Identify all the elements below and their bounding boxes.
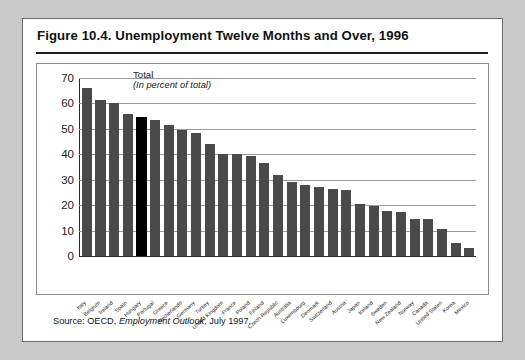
source-publication: Employment Outlook bbox=[119, 316, 204, 326]
x-axis-labels-group: ItalyBelgiumIrelandSpainHungaryPortugalG… bbox=[80, 258, 477, 304]
figure-card: Figure 10.4. Unemployment Twelve Months … bbox=[22, 18, 503, 342]
bar-iceland[interactable] bbox=[369, 206, 379, 256]
bar-slot bbox=[462, 79, 476, 256]
bar-slot bbox=[162, 79, 176, 256]
source-prefix: Source: OECD, bbox=[53, 316, 119, 326]
bar-new-zealand[interactable] bbox=[396, 212, 406, 257]
bar-turkey[interactable] bbox=[205, 144, 215, 256]
bar-hungary[interactable] bbox=[136, 117, 146, 256]
source-suffix: , July 1997. bbox=[204, 316, 251, 326]
plot-area: 010203040506070 bbox=[79, 79, 476, 257]
bar-germany[interactable] bbox=[191, 133, 201, 256]
bar-norway[interactable] bbox=[410, 219, 420, 256]
bar-slot bbox=[230, 79, 244, 256]
bar-slot bbox=[176, 79, 190, 256]
chart-legend: Total (In percent of total) bbox=[133, 69, 211, 91]
bar-slot bbox=[339, 79, 353, 256]
bar-slot bbox=[408, 79, 422, 256]
source-note: Source: OECD, Employment Outlook, July 1… bbox=[53, 316, 251, 326]
y-tick-label-40: 40 bbox=[61, 148, 74, 160]
bar-slot bbox=[94, 79, 108, 256]
bar-slot bbox=[394, 79, 408, 256]
bar-switzerland[interactable] bbox=[328, 189, 338, 256]
bar-slot bbox=[121, 79, 135, 256]
bar-slot bbox=[380, 79, 394, 256]
y-tick-label-20: 20 bbox=[61, 199, 74, 211]
y-tick-label-0: 0 bbox=[68, 250, 74, 262]
y-tick-label-10: 10 bbox=[61, 225, 74, 237]
bar-canada[interactable] bbox=[423, 219, 433, 256]
legend-line-1: Total bbox=[133, 69, 211, 80]
bar-slot bbox=[421, 79, 435, 256]
figure-title: Figure 10.4. Unemployment Twelve Months … bbox=[37, 28, 409, 43]
bar-korea[interactable] bbox=[451, 243, 461, 256]
bar-slot bbox=[244, 79, 258, 256]
bar-japan[interactable] bbox=[355, 204, 365, 256]
bar-slot bbox=[299, 79, 313, 256]
bar-belgium[interactable] bbox=[95, 100, 105, 256]
bar-finland[interactable] bbox=[259, 163, 269, 256]
bar-poland[interactable] bbox=[246, 156, 256, 256]
bar-united-kingdom[interactable] bbox=[218, 154, 228, 256]
x-axis-line bbox=[79, 256, 476, 257]
y-tick-label-70: 70 bbox=[61, 72, 74, 84]
bars-group bbox=[80, 79, 476, 256]
bar-czech-republic[interactable] bbox=[273, 175, 283, 256]
bar-sweden[interactable] bbox=[382, 211, 392, 256]
title-divider bbox=[36, 52, 488, 54]
y-tick-label-30: 30 bbox=[61, 174, 74, 186]
bar-slot bbox=[80, 79, 94, 256]
y-tick-label-50: 50 bbox=[61, 123, 74, 135]
screenshot-page: Figure 10.4. Unemployment Twelve Months … bbox=[0, 0, 525, 360]
bar-slot bbox=[271, 79, 285, 256]
bar-slot bbox=[107, 79, 121, 256]
bar-italy[interactable] bbox=[82, 88, 92, 256]
bar-slot bbox=[353, 79, 367, 256]
bar-france[interactable] bbox=[232, 154, 242, 256]
bar-portugal[interactable] bbox=[150, 120, 160, 256]
bar-ireland[interactable] bbox=[109, 103, 119, 256]
bar-spain[interactable] bbox=[123, 114, 133, 256]
bar-slot bbox=[449, 79, 463, 256]
x-axis-label-france: France bbox=[221, 300, 238, 316]
bar-slot bbox=[258, 79, 272, 256]
bar-slot bbox=[285, 79, 299, 256]
bar-denmark[interactable] bbox=[314, 187, 324, 256]
chart-frame: 010203040506070 Total (In percent of tot… bbox=[36, 63, 489, 295]
bar-slot bbox=[367, 79, 381, 256]
bar-luxembourg[interactable] bbox=[300, 185, 310, 256]
bar-united-states[interactable] bbox=[437, 229, 447, 256]
bar-slot bbox=[148, 79, 162, 256]
x-axis-label-mexico: Mexico bbox=[453, 300, 470, 316]
bar-slot bbox=[217, 79, 231, 256]
legend-line-2: (In percent of total) bbox=[133, 80, 211, 91]
bar-slot bbox=[312, 79, 326, 256]
bar-slot bbox=[135, 79, 149, 256]
bar-slot bbox=[326, 79, 340, 256]
y-tick-label-60: 60 bbox=[61, 97, 74, 109]
bar-slot bbox=[203, 79, 217, 256]
bar-greece[interactable] bbox=[164, 125, 174, 256]
bar-slot bbox=[189, 79, 203, 256]
bar-austria[interactable] bbox=[341, 190, 351, 256]
bar-mexico[interactable] bbox=[464, 248, 474, 256]
bar-netherlands[interactable] bbox=[177, 130, 187, 256]
bar-australia[interactable] bbox=[287, 182, 297, 256]
bar-slot bbox=[435, 79, 449, 256]
x-axis-label-austria: Austria bbox=[330, 300, 347, 316]
